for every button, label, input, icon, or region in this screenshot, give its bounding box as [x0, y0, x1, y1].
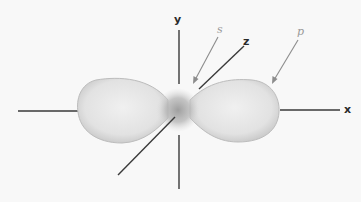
s-orbital-core — [156, 88, 200, 132]
p-lobe-left — [78, 78, 168, 143]
p-arrowhead-icon — [272, 76, 278, 84]
orbital-drawing — [0, 0, 361, 202]
s-orbital-label: s — [217, 24, 223, 35]
x-axis-label: x — [344, 104, 351, 115]
y-axis-label: y — [174, 14, 181, 25]
orbital-diagram: y s z p x — [0, 0, 361, 202]
p-lobe-right — [190, 80, 279, 142]
z-axis-label: z — [243, 36, 249, 47]
p-arrow-line — [274, 40, 298, 80]
p-orbital-label: p — [297, 26, 304, 37]
s-arrowhead-icon — [193, 76, 199, 84]
